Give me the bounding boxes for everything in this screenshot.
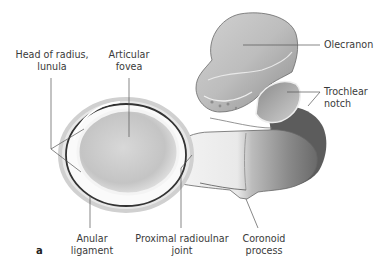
label-articular-fovea: Articular fovea bbox=[100, 49, 158, 72]
label-trochlear-notch: Trochlear notch bbox=[324, 86, 368, 109]
label-proximal-radioulnar-joint: Proximal radioulnar joint bbox=[132, 233, 232, 256]
anatomy-figure: Head of radius, lunula Articular fovea O… bbox=[0, 0, 385, 271]
ulna bbox=[172, 13, 326, 199]
label-olecranon: Olecranon bbox=[324, 39, 373, 51]
label-anular-ligament: Anular ligament bbox=[60, 233, 124, 256]
label-head-of-radius: Head of radius, lunula bbox=[10, 49, 94, 72]
label-coronoid-process: Coronoid process bbox=[236, 233, 292, 256]
radius-head bbox=[60, 99, 192, 211]
figure-letter: a bbox=[36, 245, 43, 256]
